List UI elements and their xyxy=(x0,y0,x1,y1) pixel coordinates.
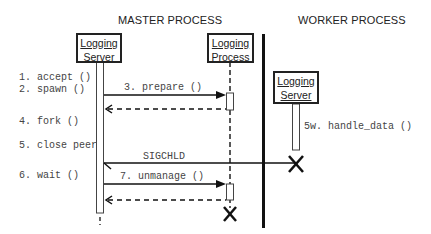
step-close-peer: 5. close peer xyxy=(19,140,97,151)
message-sigchld: SIGCHLD xyxy=(143,151,185,162)
step-fork: 4. fork () xyxy=(19,116,79,127)
step-spawn: 2. spawn () xyxy=(19,84,85,95)
object-name-line1: Logging xyxy=(209,36,252,50)
object-name-line2: Server xyxy=(78,50,120,64)
message-prepare: 3. prepare () xyxy=(124,82,202,93)
object-name-line2: Server xyxy=(275,88,317,102)
master-logging-server-box: Logging Server xyxy=(76,33,122,63)
object-name-line1: Logging xyxy=(78,36,120,50)
step-accept: 1. accept () xyxy=(19,72,91,83)
object-name-line1: Logging xyxy=(275,74,317,88)
master-logging-process-box: Logging Process xyxy=(207,33,254,63)
worker-logging-server-box: Logging Server xyxy=(273,71,319,104)
message-handle-data: 5w. handle_data () xyxy=(304,121,412,132)
step-wait: 6. wait () xyxy=(19,170,79,181)
object-name-line2: Process xyxy=(209,50,252,64)
message-unmanage: 7. unmanage () xyxy=(120,171,204,182)
